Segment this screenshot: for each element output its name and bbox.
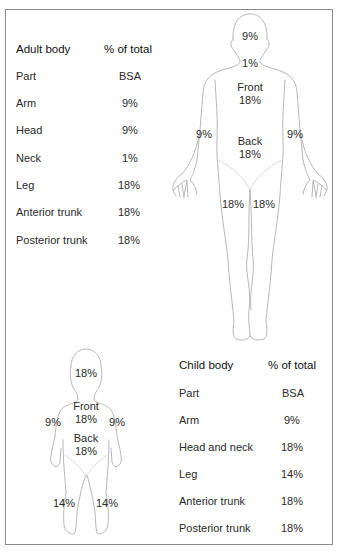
child-row-part: Posterior trunk	[179, 522, 251, 534]
child-row-part: Leg	[179, 468, 197, 480]
child-row-value: 18%	[281, 495, 303, 507]
child-row-value: 18%	[281, 441, 303, 453]
child-row-value: 9%	[284, 414, 300, 426]
child-header-value: % of total	[268, 359, 316, 371]
child-header-part: Child body	[179, 359, 233, 371]
child-subheader-part: Part	[179, 387, 199, 399]
child-row-part: Head and neck	[179, 441, 253, 453]
child-row-part: Anterior trunk	[179, 495, 245, 507]
child-subheader-value: BSA	[282, 387, 304, 399]
child-row-part: Arm	[179, 414, 199, 426]
child-row-value: 14%	[281, 468, 303, 480]
child-bsa-table: Child body % of total Part BSA Arm 9% He…	[0, 0, 345, 557]
child-row-value: 18%	[281, 522, 303, 534]
